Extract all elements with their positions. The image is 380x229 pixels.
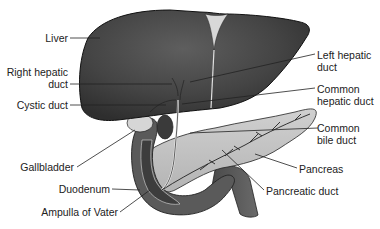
label-gallbladder: Gallbladder xyxy=(0,161,74,173)
label-pancreas: Pancreas xyxy=(299,163,343,175)
label-cystic-duct: Cystic duct xyxy=(0,99,68,111)
liver xyxy=(80,10,310,121)
label-pancreatic-duct: Pancreatic duct xyxy=(266,185,338,197)
label-common-hepatic-duct-line1: Common xyxy=(317,83,360,95)
label-left-hepatic-duct-line2: duct xyxy=(317,61,337,73)
label-duodenum: Duodenum xyxy=(0,183,110,195)
label-left-hepatic-duct-line1: Left hepatic xyxy=(317,49,371,61)
label-common-bile-duct-line1: Common xyxy=(317,122,360,134)
label-right-hepatic-duct-line2: duct xyxy=(0,78,68,90)
label-ampulla-of-vater: Ampulla of Vater xyxy=(0,206,118,218)
label-liver: Liver xyxy=(0,32,68,44)
label-common-bile-duct-line2: bile duct xyxy=(317,134,356,146)
biliary-anatomy-diagram: Liver Right hepatic duct Cystic duct Gal… xyxy=(0,0,380,229)
label-common-hepatic-duct-line2: hepatic duct xyxy=(317,95,374,107)
label-right-hepatic-duct-line1: Right hepatic xyxy=(0,66,68,78)
